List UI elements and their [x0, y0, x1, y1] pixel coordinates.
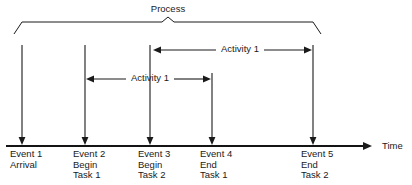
- event-4-label: Event 4EndTask 1: [200, 148, 232, 180]
- event-1-label-line-2: Arrival: [10, 159, 37, 170]
- event-5-arrowhead: [310, 137, 317, 145]
- activity-span-upper: Activity 1: [153, 43, 312, 54]
- event-2-label-line-1: Event 2: [73, 148, 105, 159]
- time-axis-arrowhead: [363, 142, 372, 150]
- event-2-label: Event 2BeginTask 1: [73, 148, 105, 180]
- event-1-label: Event 1Arrival: [10, 148, 42, 170]
- event-2-label-line-3: Task 1: [73, 169, 100, 180]
- event-3-label: Event 3BeginTask 2: [138, 148, 170, 180]
- event-labels: Event 1ArrivalEvent 2BeginTask 1Event 3B…: [10, 148, 333, 180]
- event-1-label-line-1: Event 1: [10, 148, 42, 159]
- event-4-label-line-2: End: [200, 159, 217, 170]
- event-3-arrowhead: [147, 137, 154, 145]
- event-drop-line: [147, 45, 154, 145]
- event-3-label-line-1: Event 3: [138, 148, 170, 159]
- event-5-label: Event 5EndTask 2: [301, 148, 333, 180]
- activity-span-upper-left-arrowhead: [153, 47, 161, 54]
- event-4-arrowhead: [209, 137, 216, 145]
- event-drop-lines: [19, 45, 317, 145]
- process-bracket: Process: [14, 3, 321, 34]
- process-bracket-path: [14, 17, 321, 34]
- event-2-label-line-2: Begin: [73, 159, 97, 170]
- event-3-label-line-2: Begin: [138, 159, 162, 170]
- event-drop-line: [209, 73, 216, 145]
- event-4-label-line-3: Task 1: [200, 169, 227, 180]
- event-drop-line: [82, 45, 89, 145]
- activity-span-lower-right-arrowhead: [203, 76, 211, 83]
- activity-span-upper-right-arrowhead: [304, 47, 312, 54]
- activity-span-lower: Activity 1: [86, 72, 211, 83]
- event-drop-line: [310, 45, 317, 145]
- diagram-canvas: Process Activity 1Activity 1 Time Event …: [0, 0, 412, 185]
- event-5-label-line-3: Task 2: [301, 169, 328, 180]
- event-3-label-line-3: Task 2: [138, 169, 165, 180]
- activity-span-lower-label: Activity 1: [131, 72, 169, 83]
- time-axis-label: Time: [382, 140, 403, 151]
- event-drop-line: [19, 45, 26, 145]
- activity-span-upper-label: Activity 1: [221, 43, 259, 54]
- activity-span-lower-left-arrowhead: [86, 76, 94, 83]
- event-1-arrowhead: [19, 137, 26, 145]
- process-label: Process: [151, 3, 186, 14]
- event-5-label-line-2: End: [301, 159, 318, 170]
- event-5-label-line-1: Event 5: [301, 148, 333, 159]
- process-timeline-diagram: Process Activity 1Activity 1 Time Event …: [0, 0, 412, 185]
- activity-span-arrows: Activity 1Activity 1: [86, 43, 312, 83]
- event-2-arrowhead: [82, 137, 89, 145]
- event-4-label-line-1: Event 4: [200, 148, 232, 159]
